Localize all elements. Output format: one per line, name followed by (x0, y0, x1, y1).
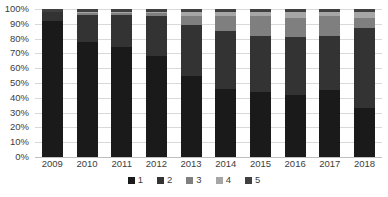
legend-swatch-icon (186, 177, 193, 184)
bar-stack (354, 9, 375, 157)
bar-column[interactable] (313, 9, 348, 157)
legend-swatch-icon (245, 177, 252, 184)
legend-item-1[interactable]: 1 (128, 175, 143, 185)
bar-column[interactable] (70, 9, 105, 157)
bar-segment-series-2[interactable] (215, 31, 236, 89)
bar-series-group (35, 9, 382, 157)
y-tick-label: 20% (10, 122, 29, 132)
y-tick-label: 60% (10, 63, 29, 73)
legend-swatch-icon (157, 177, 164, 184)
bar-segment-series-2[interactable] (42, 12, 63, 21)
bar-segment-series-3[interactable] (354, 18, 375, 28)
x-tick-label: 2009 (35, 158, 70, 170)
legend-label: 4 (226, 175, 231, 185)
bar-segment-series-3[interactable] (215, 16, 236, 31)
bar-segment-series-2[interactable] (111, 15, 132, 48)
plot-area (35, 9, 382, 157)
y-tick-label: 80% (10, 34, 29, 44)
legend-item-5[interactable]: 5 (245, 175, 260, 185)
bar-stack (319, 9, 340, 157)
legend-label: 2 (167, 175, 172, 185)
y-tick-label: 90% (10, 19, 29, 29)
bar-stack (215, 9, 236, 157)
x-tick-label: 2018 (347, 158, 382, 170)
legend-item-3[interactable]: 3 (186, 175, 201, 185)
bar-segment-series-1[interactable] (215, 89, 236, 157)
y-tick-label: 10% (10, 137, 29, 147)
y-tick-label: 0% (15, 152, 29, 162)
y-axis: 0%10%20%30%40%50%60%70%80%90%100% (0, 9, 33, 157)
bar-segment-series-3[interactable] (319, 16, 340, 35)
bar-stack (111, 9, 132, 157)
bar-stack (146, 9, 167, 157)
bar-segment-series-2[interactable] (285, 37, 306, 95)
bar-segment-series-1[interactable] (77, 42, 98, 157)
bar-column[interactable] (347, 9, 382, 157)
y-tick-label: 30% (10, 108, 29, 118)
x-tick-label: 2015 (243, 158, 278, 170)
x-tick-label: 2013 (174, 158, 209, 170)
bar-segment-series-1[interactable] (354, 108, 375, 157)
bar-segment-series-2[interactable] (77, 15, 98, 42)
bar-stack (77, 9, 98, 157)
stacked-bar-chart: 0%10%20%30%40%50%60%70%80%90%100% 200920… (0, 0, 388, 197)
legend-label: 5 (255, 175, 260, 185)
legend-label: 1 (138, 175, 143, 185)
bar-column[interactable] (35, 9, 70, 157)
y-tick-label: 50% (10, 78, 29, 88)
bar-segment-series-3[interactable] (250, 16, 271, 35)
bar-stack (181, 9, 202, 157)
legend-item-4[interactable]: 4 (216, 175, 231, 185)
bar-column[interactable] (174, 9, 209, 157)
y-tick-label: 40% (10, 93, 29, 103)
x-tick-label: 2010 (70, 158, 105, 170)
bar-column[interactable] (243, 9, 278, 157)
x-tick-label: 2017 (313, 158, 348, 170)
bar-column[interactable] (139, 9, 174, 157)
bar-segment-series-3[interactable] (181, 16, 202, 25)
x-tick-label: 2012 (139, 158, 174, 170)
bar-column[interactable] (104, 9, 139, 157)
bar-stack (285, 9, 306, 157)
x-axis: 2009201020112012201320142015201620172018 (35, 158, 382, 172)
legend-swatch-icon (216, 177, 223, 184)
bar-segment-series-1[interactable] (111, 47, 132, 157)
bar-segment-series-2[interactable] (181, 25, 202, 75)
bar-column[interactable] (208, 9, 243, 157)
y-tick-label: 70% (10, 48, 29, 58)
bar-segment-series-3[interactable] (285, 18, 306, 37)
bar-segment-series-1[interactable] (42, 21, 63, 157)
bar-stack (42, 9, 63, 157)
y-tick-label: 100% (5, 4, 29, 14)
bar-segment-series-1[interactable] (285, 95, 306, 157)
bar-column[interactable] (278, 9, 313, 157)
x-tick-label: 2011 (104, 158, 139, 170)
legend-swatch-icon (128, 177, 135, 184)
bar-segment-series-1[interactable] (250, 92, 271, 157)
bar-segment-series-2[interactable] (146, 16, 167, 56)
bar-segment-series-2[interactable] (250, 36, 271, 92)
bar-segment-series-2[interactable] (319, 36, 340, 91)
x-tick-label: 2014 (208, 158, 243, 170)
x-tick-label: 2016 (278, 158, 313, 170)
bar-segment-series-1[interactable] (181, 76, 202, 157)
legend-item-2[interactable]: 2 (157, 175, 172, 185)
bar-segment-series-1[interactable] (146, 56, 167, 157)
bar-segment-series-2[interactable] (354, 28, 375, 108)
legend-label: 3 (196, 175, 201, 185)
chart-legend: 12345 (0, 173, 388, 187)
bar-stack (250, 9, 271, 157)
bar-segment-series-1[interactable] (319, 90, 340, 157)
